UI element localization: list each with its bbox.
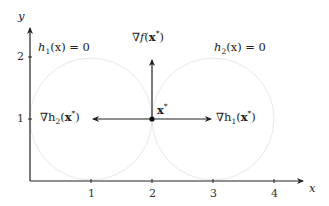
y-tick-label-2: 2 <box>17 51 24 62</box>
x-tick-label-1: 1 <box>88 188 95 199</box>
optimum-point <box>149 116 154 121</box>
x-tick-label-2: 2 <box>149 188 156 199</box>
x-tick-label-3: 3 <box>210 188 217 199</box>
grad-h2-label: ∇h2(x*) <box>40 112 80 124</box>
grad-f-label: ∇f(x*) <box>132 32 164 44</box>
grad-h1-label: ∇h1(x*) <box>216 112 256 124</box>
optimum-point-label: x* <box>157 105 168 117</box>
x-tick-label-4: 4 <box>271 188 278 199</box>
lagrange-diagram: y x 1 2 3 4 2 1 h1(x) = 0 h2(x) = 0 ∇f(x… <box>0 0 329 206</box>
x-axis-label: x <box>309 183 316 195</box>
y-tick-label-1: 1 <box>17 113 24 124</box>
h2-label: h2(x) = 0 <box>214 42 266 54</box>
y-axis-label: y <box>18 11 25 23</box>
h1-label: h1(x) = 0 <box>38 42 90 54</box>
